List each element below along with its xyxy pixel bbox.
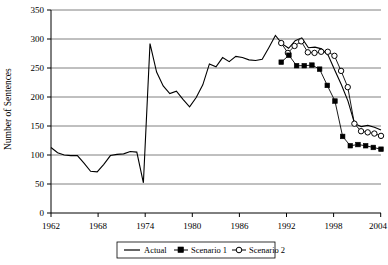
xlabel-1992: 1992 bbox=[278, 221, 296, 231]
data-point-scenario2 bbox=[298, 39, 303, 44]
legend-label-scenario1: Scenario 1 bbox=[191, 245, 227, 255]
data-point-scenario2 bbox=[312, 50, 317, 55]
xlabel-1968: 1968 bbox=[89, 221, 108, 231]
xlabel-1986: 1986 bbox=[230, 221, 249, 231]
data-point-scenario1 bbox=[325, 83, 330, 88]
xlabel-1980: 1980 bbox=[183, 221, 202, 231]
xlabel-1998: 1998 bbox=[325, 221, 344, 231]
y-axis-title: Number of Sentences bbox=[3, 68, 13, 150]
data-point-scenario2 bbox=[358, 129, 363, 134]
data-point-scenario2 bbox=[332, 53, 337, 58]
data-point-scenario1 bbox=[317, 67, 322, 72]
data-point-scenario1 bbox=[333, 99, 338, 104]
ylabel-100: 100 bbox=[31, 150, 45, 160]
xlabel-1974: 1974 bbox=[136, 221, 155, 231]
ylabel-0: 0 bbox=[40, 208, 45, 218]
data-point-scenario2 bbox=[372, 131, 377, 136]
data-point-scenario1 bbox=[294, 63, 299, 68]
ylabel-150: 150 bbox=[31, 121, 45, 131]
line-chart: Number of Sentences 350 300 250 200 150 … bbox=[0, 0, 388, 265]
data-point-scenario2 bbox=[352, 121, 357, 126]
data-point-scenario2 bbox=[365, 130, 370, 135]
data-point-scenario1 bbox=[287, 53, 292, 58]
ylabel-350: 350 bbox=[31, 5, 45, 15]
data-point-scenario1 bbox=[371, 145, 376, 150]
data-point-scenario1 bbox=[310, 63, 315, 68]
ylabel-300: 300 bbox=[31, 34, 45, 44]
ylabel-50: 50 bbox=[35, 179, 45, 189]
data-point-scenario2 bbox=[338, 68, 343, 73]
ylabel-200: 200 bbox=[31, 92, 45, 102]
data-point-scenario2 bbox=[345, 84, 350, 89]
data-point-scenario1 bbox=[348, 143, 353, 148]
xlabel-2004: 2004 bbox=[369, 221, 388, 231]
data-point-scenario1 bbox=[302, 63, 307, 68]
data-point-scenario2 bbox=[378, 133, 383, 138]
data-point-scenario2 bbox=[318, 49, 323, 54]
data-point-scenario2 bbox=[279, 40, 284, 45]
xlabel-1962: 1962 bbox=[42, 221, 60, 231]
legend-marker-scenario1-icon bbox=[178, 247, 184, 253]
data-point-scenario1 bbox=[379, 147, 384, 152]
legend-marker-scenario2-icon bbox=[236, 247, 242, 253]
data-point-scenario2 bbox=[325, 49, 330, 54]
legend-label-scenario2: Scenario 2 bbox=[249, 245, 285, 255]
legend-label-actual: Actual bbox=[144, 245, 167, 255]
data-point-scenario1 bbox=[279, 60, 284, 65]
data-point-scenario2 bbox=[292, 43, 297, 48]
data-point-scenario1 bbox=[340, 134, 345, 139]
ylabel-250: 250 bbox=[31, 63, 45, 73]
data-point-scenario1 bbox=[356, 142, 361, 147]
data-point-scenario2 bbox=[305, 50, 310, 55]
chart-legend: Actual Scenario 1 Scenario 2 bbox=[117, 242, 285, 258]
data-point-scenario1 bbox=[363, 143, 368, 148]
chart-container: Number of Sentences 350 300 250 200 150 … bbox=[0, 0, 388, 265]
